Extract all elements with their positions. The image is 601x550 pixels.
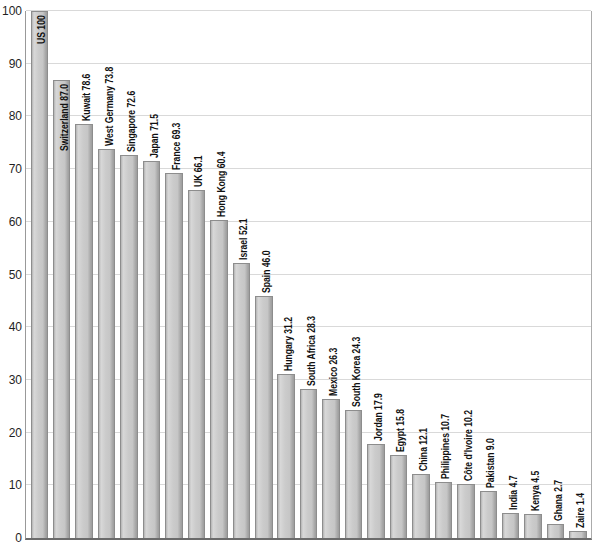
y-axis-tick-label: 100 xyxy=(0,4,22,18)
y-axis-tick-label: 40 xyxy=(0,320,22,334)
bar xyxy=(390,455,408,538)
bar-value-label: Switzerland 87.0 xyxy=(58,84,70,151)
bar-value-label: Hungary 31.2 xyxy=(282,316,294,370)
bar xyxy=(31,11,49,538)
plot-area: 0102030405060708090100US 100Switzerland … xyxy=(25,11,592,540)
bar-value-label: Côte d'Ivoire 10.2 xyxy=(462,410,474,481)
bar-value-label: South Korea 24.3 xyxy=(350,337,362,407)
bar-value-label: UK 66.1 xyxy=(192,155,204,187)
gridline xyxy=(26,10,591,11)
bar xyxy=(367,444,385,538)
bar-value-label: Kenya 4.5 xyxy=(529,471,541,511)
bar-value-label: France 69.3 xyxy=(170,122,182,169)
bar-value-label: Zaire 1.4 xyxy=(574,493,586,528)
bar-value-label: Jordan 17.9 xyxy=(372,393,384,441)
y-axis-tick-label: 10 xyxy=(0,478,22,492)
bar-value-label: Philippines 10.7 xyxy=(439,414,451,479)
bar-value-label: Hong Kong 60.4 xyxy=(215,151,227,217)
bar xyxy=(322,399,340,538)
bar-value-label: Spain 46.0 xyxy=(260,250,272,293)
bar xyxy=(480,491,498,538)
y-axis-tick-label: 30 xyxy=(0,373,22,387)
y-axis-tick-label: 70 xyxy=(0,162,22,176)
bar-value-label: India 4.7 xyxy=(507,476,519,510)
bar-value-label: China 12.1 xyxy=(417,428,429,471)
bar xyxy=(188,190,206,538)
bar xyxy=(345,410,363,538)
bar-value-label: Mexico 26.3 xyxy=(327,348,339,396)
bar xyxy=(300,389,318,538)
bar xyxy=(569,531,587,538)
bar-value-label: Ghana 2.7 xyxy=(552,480,564,521)
bar xyxy=(165,173,183,538)
bar-value-label: US 100 xyxy=(35,15,47,44)
bar xyxy=(255,296,273,538)
gridline xyxy=(26,63,591,64)
bar xyxy=(457,484,475,538)
y-axis-tick-label: 90 xyxy=(0,57,22,71)
bar xyxy=(120,155,138,538)
bar-value-label: Singapore 72.6 xyxy=(125,91,137,152)
bar xyxy=(524,514,542,538)
y-axis-tick-label: 20 xyxy=(0,426,22,440)
bar-value-label: West Germany 73.8 xyxy=(103,67,115,146)
bar-value-label: Egypt 15.8 xyxy=(394,409,406,452)
bar xyxy=(75,124,93,538)
bar-value-label: Israel 52.1 xyxy=(237,219,249,261)
bar-value-label: Pakistan 9.0 xyxy=(484,438,496,488)
bar xyxy=(412,474,430,538)
bar xyxy=(277,374,295,538)
bar xyxy=(210,220,228,538)
bar xyxy=(233,263,251,538)
bar-value-label: Japan 71.5 xyxy=(148,114,160,158)
y-axis-tick-label: 0 xyxy=(0,531,22,545)
bar xyxy=(143,161,161,538)
bar xyxy=(98,149,116,538)
y-axis-tick-label: 50 xyxy=(0,268,22,282)
bar-chart: 0102030405060708090100US 100Switzerland … xyxy=(0,0,601,550)
y-axis-tick-label: 80 xyxy=(0,109,22,123)
bar xyxy=(502,513,520,538)
bar xyxy=(435,482,453,538)
bar-value-label: South Africa 28.3 xyxy=(305,316,317,386)
bar-value-label: Kuwait 78.6 xyxy=(80,73,92,120)
y-axis-tick-label: 60 xyxy=(0,215,22,229)
bar xyxy=(547,524,565,538)
